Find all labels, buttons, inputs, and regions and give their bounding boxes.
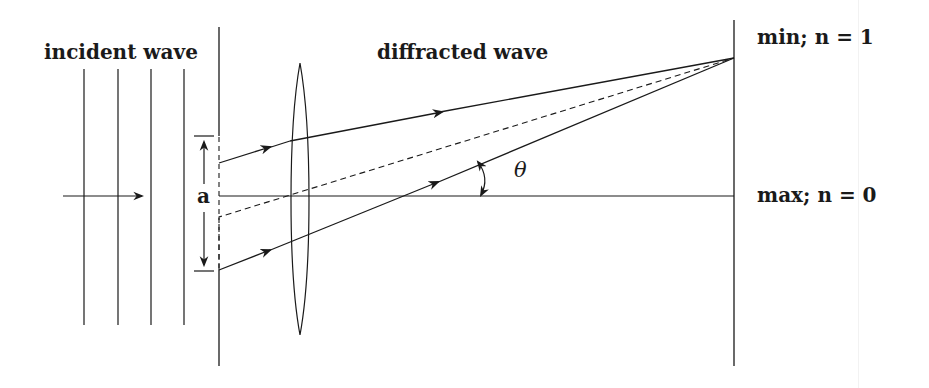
angle-theta-label: θ [514,160,527,181]
lens [291,63,309,335]
incident-wave-label: incident wave [44,42,198,62]
upper-ray [219,58,734,163]
single-slit-diffraction-diagram: incident wave diffracted wave min; n = 1… [0,0,929,388]
angle-arc-icon [478,162,485,195]
max-n0-label: max; n = 0 [757,185,877,205]
incident-wavefronts [84,69,184,325]
diffracted-wave-label: diffracted wave [377,42,548,62]
slit-width-label: a [197,186,210,206]
min-n1-label: min; n = 1 [757,27,874,47]
